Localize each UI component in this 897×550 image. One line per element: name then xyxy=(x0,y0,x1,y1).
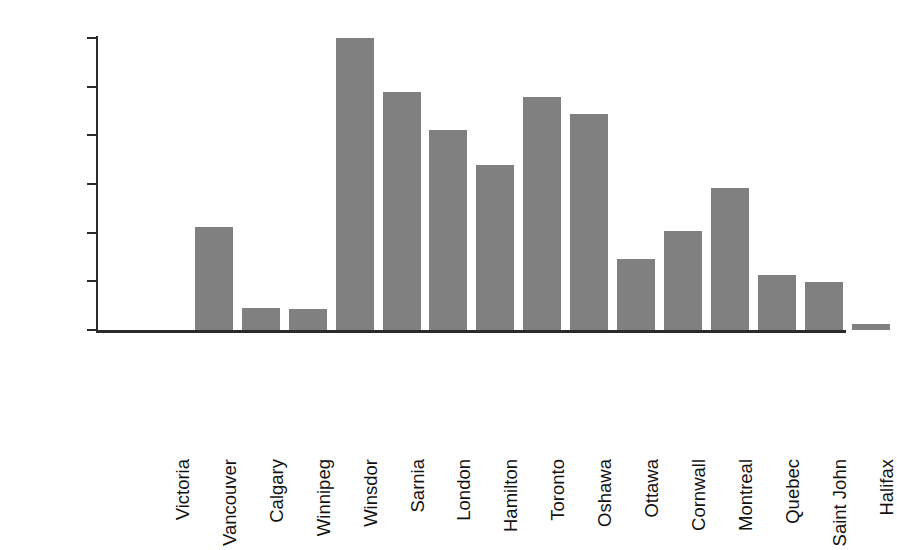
bar xyxy=(476,165,514,330)
bar xyxy=(195,227,233,330)
x-axis-category-label: Calgary xyxy=(268,459,286,550)
x-axis-category-label: Oshawa xyxy=(596,459,614,550)
x-axis-category-label: Montreal xyxy=(737,459,755,550)
y-tick-mark xyxy=(87,86,96,88)
y-tick-mark xyxy=(87,134,96,136)
x-axis-category-label: Halifax xyxy=(878,459,896,550)
x-axis-category-label: Victoria xyxy=(174,459,192,550)
y-axis-ticks: 051015202530 xyxy=(0,0,96,462)
bar xyxy=(383,92,421,330)
x-axis-category-label: Vancouver xyxy=(221,459,239,550)
x-axis-category-labels: VictoriaVancouverCalgaryWinnipegWinsdorS… xyxy=(96,333,852,462)
y-tick-mark xyxy=(87,183,96,185)
bar xyxy=(805,282,843,330)
x-axis-category-label: Sarnia xyxy=(409,459,427,550)
bar xyxy=(852,324,890,330)
bar xyxy=(242,308,280,330)
x-axis-category-label: Toronto xyxy=(549,459,567,550)
bar xyxy=(429,130,467,331)
x-axis-category-label: Winsdor xyxy=(362,459,380,550)
bar xyxy=(289,309,327,330)
y-tick-mark xyxy=(87,37,96,39)
x-axis-category-label: Saint John xyxy=(831,459,849,550)
y-tick-mark xyxy=(87,280,96,282)
bars-layer xyxy=(96,0,852,331)
bar xyxy=(758,275,796,330)
x-axis-category-label: Quebec xyxy=(784,459,802,550)
bar xyxy=(617,259,655,330)
bar xyxy=(711,188,749,330)
bar xyxy=(664,231,702,330)
x-axis-category-label: London xyxy=(455,459,473,550)
x-axis-category-label: Hamilton xyxy=(502,459,520,550)
y-tick-mark xyxy=(87,232,96,234)
x-axis-category-label: Cornwall xyxy=(690,459,708,550)
bar xyxy=(570,114,608,330)
x-axis-category-label: Ottawa xyxy=(643,459,661,550)
x-axis-category-label: Winnipeg xyxy=(315,459,333,550)
bar xyxy=(523,97,561,330)
y-tick-mark xyxy=(87,329,96,331)
bar xyxy=(336,38,374,330)
